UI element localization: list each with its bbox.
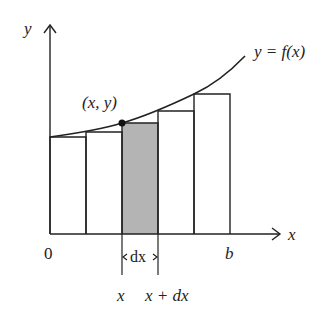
origin-label: 0 [44, 245, 53, 262]
x-axis-label: x [288, 226, 296, 243]
shaded-strip [122, 123, 158, 234]
dx-left-arrow-icon [123, 254, 127, 260]
point-x-y [119, 120, 126, 127]
strip-left-label: x [117, 287, 125, 304]
y-axis-label: y [24, 20, 32, 37]
strip-right-label: x + dx [145, 287, 189, 304]
dx-right-arrow-icon [153, 254, 157, 260]
rectangle-1 [50, 137, 86, 234]
dx-width-label: dx [130, 249, 146, 265]
curve-label: y = f(x) [254, 43, 305, 60]
rectangle-2 [86, 132, 122, 234]
rectangle-4 [158, 111, 194, 234]
b-label: b [225, 245, 234, 262]
point-label: (x, y) [82, 94, 117, 111]
rectangle-5 [194, 94, 230, 234]
area-under-curve-diagram: y x 0 b y = f(x) (x, y) dx x x + dx [0, 0, 336, 319]
